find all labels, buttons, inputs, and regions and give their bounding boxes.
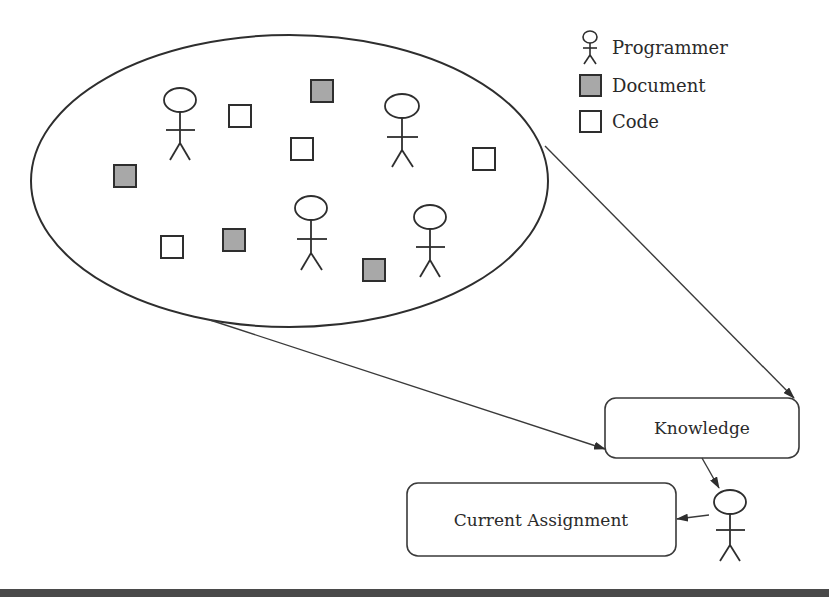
document-square-icon [114,165,136,187]
legend-code-label: Code [612,111,659,132]
legend-code-icon [580,111,601,132]
programmer-figure-icon [385,94,419,167]
bottom-border-bar [0,589,829,597]
document-square-icon [311,80,333,102]
document-square-icon [363,259,385,281]
code-square-icon [229,105,251,127]
arrow-knowledge-to-programmer [702,458,719,488]
programmer-figure-icon [164,88,196,160]
code-square-icon [161,236,183,258]
programmer-figure-icon [414,205,446,277]
programmer-figure-icon [295,196,327,270]
current-programmer-figure-icon [714,490,746,561]
arrow-programmer-to-assignment [677,515,709,519]
arrow-cluster-to-knowledge-top [545,146,794,398]
diagram-canvas: Programmer Document Code Knowledge Curre… [0,0,829,597]
knowledge-label: Knowledge [654,418,750,438]
legend-programmer-icon [583,31,597,64]
arrow-cluster-to-knowledge-bottom [210,320,605,449]
legend-document-label: Document [612,75,706,96]
code-square-icon [291,138,313,160]
legend-programmer-label: Programmer [612,37,728,58]
knowledge-node: Knowledge [605,398,799,458]
code-square-icon [473,148,495,170]
current-assignment-node: Current Assignment [407,483,676,556]
knowledge-space-ellipse [31,35,548,327]
legend-document-icon [580,75,601,96]
document-square-icon [223,229,245,251]
current-assignment-label: Current Assignment [454,510,629,530]
legend: Programmer Document Code [580,31,728,132]
